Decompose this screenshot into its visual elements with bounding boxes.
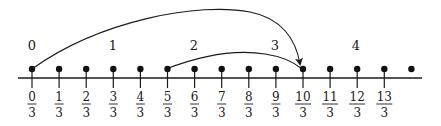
- dots-group: [29, 66, 415, 72]
- fraction-label: 123: [349, 90, 365, 120]
- fraction-label: 13: [55, 90, 64, 120]
- fraction-numerator: 4: [137, 90, 145, 104]
- fraction-denominator: 3: [164, 106, 172, 120]
- fraction-denominator: 3: [82, 106, 90, 120]
- fraction-denominator: 3: [191, 106, 199, 120]
- fraction-label: 103: [295, 90, 311, 120]
- fraction-denominator: 3: [28, 106, 36, 120]
- point-dot: [191, 66, 197, 72]
- fraction-label: 73: [217, 90, 226, 120]
- point-dot: [381, 66, 387, 72]
- point-dot: [219, 66, 225, 72]
- fraction-label: 23: [82, 90, 91, 120]
- fraction-denominator: 3: [137, 106, 145, 120]
- point-dot: [164, 66, 170, 72]
- fraction-denominator: 3: [218, 106, 226, 120]
- fraction-numerator: 13: [377, 90, 392, 104]
- fraction-denominator: 3: [299, 106, 307, 120]
- arc-5-thirds-to-10-thirds: [166, 52, 302, 69]
- point-dot: [408, 66, 414, 72]
- fraction-denominator: 3: [245, 106, 253, 120]
- point-dot: [327, 66, 333, 72]
- fraction-numerator: 10: [295, 90, 310, 104]
- number-line-diagram: 01234 03132333435363738393103113123133: [0, 0, 441, 126]
- point-dot: [273, 66, 279, 72]
- fraction-label: 63: [190, 90, 199, 120]
- whole-number-label: 4: [352, 38, 360, 53]
- fraction-denominator: 3: [380, 106, 388, 120]
- fraction-label: 53: [163, 90, 172, 120]
- point-dot: [56, 66, 62, 72]
- fraction-numerator: 11: [322, 90, 337, 104]
- whole-number-label: 3: [271, 38, 279, 53]
- fraction-numerator: 6: [191, 90, 199, 104]
- fraction-numerator: 9: [272, 90, 280, 104]
- point-dot: [110, 66, 116, 72]
- point-dot: [246, 66, 252, 72]
- fraction-denominator: 3: [109, 106, 117, 120]
- fraction-label: 43: [136, 90, 145, 120]
- whole-number-label: 2: [190, 38, 198, 53]
- whole-number-label: 1: [109, 38, 117, 53]
- fraction-numerator: 2: [82, 90, 90, 104]
- point-dot: [300, 66, 306, 72]
- fraction-numerator: 8: [245, 90, 253, 104]
- fraction-numerator: 3: [109, 90, 117, 104]
- whole-number-labels: 01234: [28, 38, 360, 53]
- fraction-numerator: 1: [55, 90, 63, 104]
- fraction-denominator: 3: [326, 106, 334, 120]
- fraction-label: 133: [376, 90, 392, 120]
- fraction-numerator: 5: [164, 90, 172, 104]
- fraction-label: 83: [244, 90, 253, 120]
- fraction-denominator: 3: [353, 106, 361, 120]
- fraction-numerator: 12: [350, 90, 365, 104]
- arc-0-to-10-thirds: [32, 9, 300, 69]
- fraction-denominator: 3: [272, 106, 280, 120]
- fraction-denominator: 3: [55, 106, 63, 120]
- point-dot: [83, 66, 89, 72]
- point-dot: [137, 66, 143, 72]
- fraction-labels: 03132333435363738393103113123133: [28, 90, 393, 120]
- fraction-numerator: 7: [218, 90, 226, 104]
- fraction-numerator: 0: [28, 90, 36, 104]
- fraction-label: 03: [28, 90, 37, 120]
- whole-number-label: 0: [28, 38, 36, 53]
- fraction-label: 113: [322, 90, 338, 120]
- point-dot: [29, 66, 35, 72]
- fraction-label: 93: [271, 90, 280, 120]
- point-dot: [354, 66, 360, 72]
- fraction-label: 33: [109, 90, 118, 120]
